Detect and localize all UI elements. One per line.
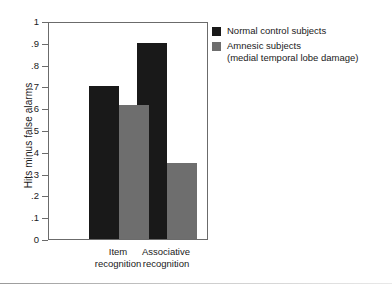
bar-chart-figure: Hits minus false alarms 0.1.2.3.4.5.6.7.… [0, 0, 392, 291]
legend-label: Amnesic subjects [227, 40, 358, 53]
y-axis-tick-mark [42, 240, 48, 241]
legend-item[interactable]: Amnesic subjects(medial temporal lobe da… [212, 40, 390, 65]
plot-area [48, 22, 208, 240]
bar-1-1 [167, 163, 197, 239]
x-axis-category-line: recognition [121, 258, 211, 270]
y-axis-tick-label: .4 [31, 146, 39, 159]
legend-swatch-icon [212, 27, 221, 36]
chart-legend: Normal control subjectsAmnesic subjects(… [212, 25, 390, 67]
y-axis-tick-label: .1 [31, 211, 39, 224]
y-axis-tick-label: .9 [31, 37, 39, 50]
y-axis-tick-label: .5 [31, 124, 39, 137]
y-axis-tick-label: .8 [31, 59, 39, 72]
legend-sublabel: (medial temporal lobe damage) [227, 52, 358, 65]
legend-item[interactable]: Normal control subjects [212, 25, 390, 38]
legend-text-wrap: Normal control subjects [227, 25, 326, 38]
legend-label: Normal control subjects [227, 25, 326, 38]
legend-text-wrap: Amnesic subjects(medial temporal lobe da… [227, 40, 358, 65]
y-axis-tick-label: .6 [31, 102, 39, 115]
bottom-divider [0, 283, 392, 284]
x-axis-category-line: Associative [121, 246, 211, 258]
bar-0-0 [89, 86, 119, 239]
y-axis-tick-label: .2 [31, 189, 39, 202]
y-axis-tick-label: .7 [31, 80, 39, 93]
bar-1-0 [119, 105, 149, 239]
legend-swatch-icon [212, 42, 221, 51]
y-axis-tick-label: 0 [34, 233, 39, 246]
y-axis-tick-label: .3 [31, 168, 39, 181]
x-axis-category-label: Associativerecognition [121, 246, 211, 270]
y-axis-tick-label: 1 [34, 15, 39, 28]
